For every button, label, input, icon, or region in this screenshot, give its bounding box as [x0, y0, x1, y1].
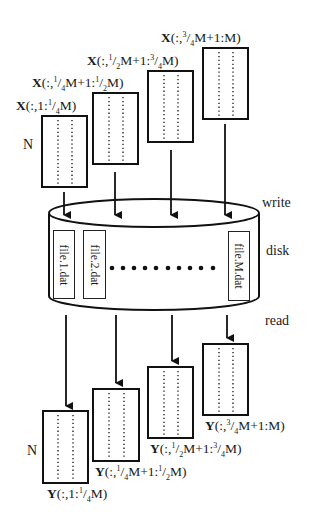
input-label-3: X(:,1/2M+1:3/4M) — [87, 54, 179, 68]
input-label-1: X(:,1:1/4M) — [16, 99, 76, 113]
output-block-2 — [93, 389, 139, 461]
input-label-4: X(:,3/4M+1:M) — [161, 31, 241, 45]
input-block-3 — [148, 71, 193, 142]
output-block-4 — [203, 344, 248, 415]
output-block-1 — [43, 411, 88, 483]
file-label-m: file.M.dat — [233, 243, 245, 288]
ellipsis-dots — [110, 266, 216, 271]
file-box-1: file.1.dat — [53, 230, 75, 299]
output-label-4: Y(:,3/4M+1:M) — [205, 419, 285, 433]
file-label-1: file.1.dat — [58, 244, 70, 285]
input-block-2 — [93, 93, 138, 164]
file-box-2: file.2.dat — [83, 230, 106, 299]
row-label-bottom: N — [27, 444, 37, 458]
input-label-2: X(:,1/4M+1:1/2M) — [32, 76, 124, 90]
input-block-1 — [42, 116, 87, 187]
output-label-3: Y(:,1/2M+1:3/4M) — [150, 442, 242, 456]
output-block-3 — [148, 367, 193, 438]
row-label-top: N — [23, 138, 33, 152]
output-label-2: Y(:,1/4M+1:1/2M) — [95, 465, 187, 479]
file-label-2: file.2.dat — [89, 244, 101, 285]
file-box-m: file.M.dat — [228, 231, 250, 301]
input-block-4 — [203, 48, 248, 119]
disk-label: disk — [266, 244, 289, 258]
write-label: write — [262, 196, 291, 210]
output-label-1: Y(:,1:1/4M) — [47, 487, 107, 501]
read-label: read — [265, 314, 289, 328]
